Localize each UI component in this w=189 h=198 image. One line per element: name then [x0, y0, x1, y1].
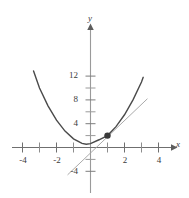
y-tick-label-8: 8 [64, 95, 78, 104]
graph-figure: 12 8 4 -4 -4 -2 2 4 y x [0, 0, 189, 198]
parabola-curve [34, 71, 144, 144]
y-axis-label: y [88, 14, 92, 23]
y-tick-label-4: 4 [64, 119, 78, 128]
x-axis-label: x [176, 140, 180, 149]
x-tick-label-2: 2 [115, 156, 135, 165]
tangency-point-marker [104, 132, 110, 138]
x-tick-label-neg2: -2 [47, 156, 67, 165]
plot-canvas [0, 0, 189, 198]
x-tick-label-neg4: -4 [13, 156, 33, 165]
y-tick-label-12: 12 [64, 71, 78, 80]
x-tick-label-4: 4 [149, 156, 169, 165]
y-tick-label-neg4: -4 [62, 167, 78, 176]
y-axis [86, 29, 96, 193]
